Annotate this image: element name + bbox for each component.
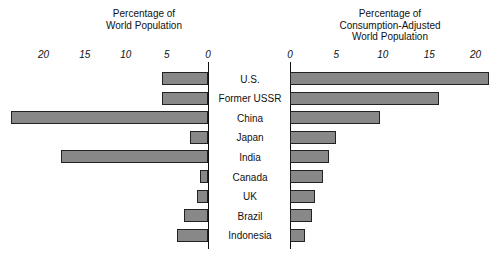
bar-left-uk [197, 190, 208, 203]
category-label-japan: Japan [210, 132, 290, 143]
right-tick-0: 0 [287, 49, 293, 60]
bar-right-indonesia [290, 229, 305, 242]
category-label-canada: Canada [210, 171, 290, 182]
category-label-former-ussr: Former USSR [210, 93, 290, 104]
bar-left-china [11, 111, 208, 124]
bar-left-india [61, 150, 208, 163]
category-label-uk: UK [210, 191, 290, 202]
right-tick-5: 5 [334, 49, 340, 60]
bar-left-canada [200, 170, 208, 183]
bar-right-india [290, 150, 329, 163]
bar-right-u-s [290, 72, 489, 85]
bar-right-uk [290, 190, 315, 203]
right-tick-20: 20 [470, 49, 481, 60]
left-tick-5: 5 [164, 49, 170, 60]
bar-right-former-ussr [290, 92, 439, 105]
right-tick-10: 10 [377, 49, 388, 60]
bar-right-japan [290, 131, 336, 144]
bar-left-brazil [184, 209, 208, 222]
left-tick-15: 15 [79, 49, 90, 60]
category-label-china: China [210, 112, 290, 123]
category-label-india: India [210, 151, 290, 162]
bar-left-u-s [162, 72, 208, 85]
butterfly-bar-chart: Percentage of World Population Percentag… [0, 0, 499, 260]
bar-left-japan [190, 131, 208, 144]
right-panel-title: Percentage of Consumption-Adjusted World… [300, 8, 480, 43]
left-panel-title: Percentage of World Population [74, 8, 214, 31]
category-label-indonesia: Indonesia [210, 230, 290, 241]
bar-right-china [290, 111, 380, 124]
left-tick-10: 10 [120, 49, 131, 60]
category-label-u-s: U.S. [210, 73, 290, 84]
bar-left-former-ussr [162, 92, 208, 105]
bar-left-indonesia [177, 229, 208, 242]
right-tick-15: 15 [424, 49, 435, 60]
category-label-brazil: Brazil [210, 210, 290, 221]
bar-right-brazil [290, 209, 312, 222]
bar-right-canada [290, 170, 323, 183]
left-tick-0: 0 [205, 49, 211, 60]
left-tick-20: 20 [38, 49, 49, 60]
